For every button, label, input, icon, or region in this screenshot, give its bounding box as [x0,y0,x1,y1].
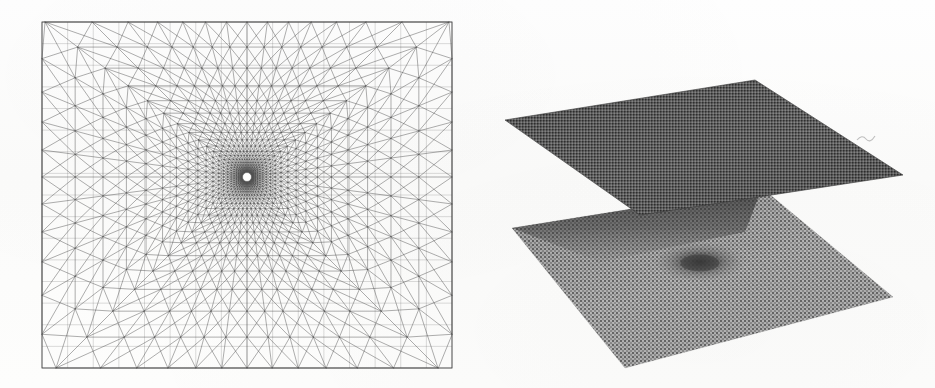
dimple-core [681,255,720,272]
surface-plot-svg [470,0,935,388]
upper-surface-shading [505,80,903,215]
scan-speck-mark [857,136,875,141]
mesh-singular-point [243,173,252,182]
upper-plane [505,80,903,215]
mesh-plot-svg [0,0,470,388]
lower-mesh-plane [512,188,893,368]
panel-two-surface-plot [470,0,935,388]
panel-graded-triangular-mesh [0,0,470,388]
figure-root: Square domain discretized by a criss-cro… [0,0,935,388]
scan-speck-artifact [857,136,875,141]
